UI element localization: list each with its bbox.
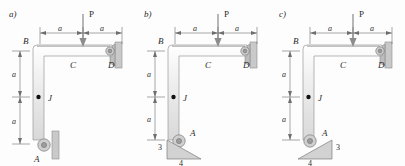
slope-rise-label: 3 [158,143,162,152]
dim-left-lower-label: a [12,117,16,126]
pin-d-center [108,49,112,53]
dim-left-upper-label: a [12,70,16,79]
point-label-a: A [321,128,328,138]
point-label-b: B [23,36,29,46]
panel-c: c) 3 4 P [270,0,405,166]
dim-left-upper-label: a [282,70,286,79]
dim-top-left-label: a [193,24,197,33]
pin-a-center [307,138,312,143]
pin-d-center [243,49,247,53]
point-label-j: J [48,93,53,103]
wall-support-a [52,131,59,159]
wall-support-d [385,42,392,68]
pin-a-center [41,142,46,147]
point-label-b: B [293,36,299,46]
slope-run-label: 4 [179,159,183,166]
panel-b: b) 3 4 P [135,0,270,166]
joint-j [306,95,310,99]
point-label-c: C [205,60,212,70]
dim-left-lower-label: a [147,115,151,124]
point-label-d: D [242,60,250,70]
panel-a: a) [0,0,135,166]
wall-support-d [250,42,257,68]
load-label-p: P [89,9,94,19]
dim-top-right-label: a [235,24,239,33]
dim-left-upper-label: a [147,70,151,79]
dim-top-left-label: a [58,24,62,33]
dim-top-right-label: a [370,24,374,33]
pin-d-center [378,49,382,53]
slope-rise-label: 3 [336,143,340,152]
point-label-c: C [70,60,77,70]
point-label-b: B [158,36,164,46]
load-label-p: P [224,9,229,19]
point-label-d: D [107,60,115,70]
point-label-c: C [340,60,347,70]
point-label-a: A [189,128,196,138]
pin-a-center [176,138,181,143]
load-label-p: P [359,9,364,19]
point-label-j: J [318,93,323,103]
dim-left-lower-label: a [282,115,286,124]
point-label-d: D [377,60,385,70]
figure-canvas: a) [0,0,405,166]
joint-j [36,95,40,99]
slope-run-label: 4 [308,159,312,166]
dim-top-left-label: a [328,24,332,33]
point-label-a: A [33,154,40,164]
wall-support-d [115,42,122,68]
point-label-j: J [183,93,188,103]
dim-top-right-label: a [100,24,104,33]
joint-j [171,95,175,99]
